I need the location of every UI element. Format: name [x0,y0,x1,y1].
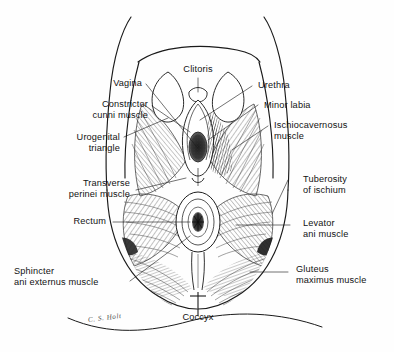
label-rectum: Rectum [42,216,106,227]
label-levator-ani-muscle: Levator ani muscle [303,218,387,239]
label-urethra: Urethra [258,80,334,91]
label-constrictor-cunni-muscle: Constrictor cunni muscle [40,99,148,120]
label-tuberosity-of-ischium: Tuberosity of ischium [303,174,389,195]
label-gluteus-maximus-muscle: Gluteus maximus muscle [296,264,394,285]
label-transverse-perinei-muscle: Transverse perinei muscle [16,178,130,199]
label-urogenital-triangle: Urogenital triangle [36,132,120,153]
label-ischiocavernosus-muscle: Ischiocavernosus muscle [274,120,386,141]
leader-tuberosity-ischium [272,180,288,214]
label-sphincter-ani-externus-muscle: Sphincter ani externus muscle [14,266,140,287]
anal-region [176,192,220,290]
label-clitoris: Clitoris [160,64,236,75]
label-vagina: Vagina [58,78,142,89]
label-coccyx: Coccyx [168,312,228,323]
label-minor-labia: Minor labia [264,100,354,111]
anatomical-plate: Clitoris Vagina Constrictor cunni muscle… [0,0,394,352]
